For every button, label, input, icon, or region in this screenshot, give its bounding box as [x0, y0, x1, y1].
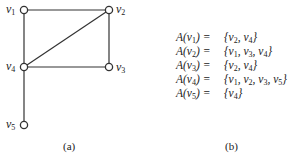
vertex-label-v3: v3 [116, 61, 125, 77]
adjacency-row-v4: A(v4) ={v1, v2, v3, v5} [176, 72, 287, 86]
adjacency-lhs: A(v5) = [176, 86, 224, 104]
vertex-v2 [105, 6, 112, 13]
vertex-label-v1: v1 [6, 3, 15, 19]
vertex-v3 [105, 63, 112, 70]
vertex-v4 [20, 63, 27, 70]
adjacency-rhs: {v1, v2, v3, v5} [224, 73, 287, 85]
caption-a: (a) [63, 140, 75, 152]
adjacency-list: A(v1) ={v2, v4}A(v2) ={v1, v3, v4}A(v3) … [176, 30, 287, 100]
vertex-label-v4: v4 [6, 60, 15, 76]
adjacency-rhs: {v1, v3, v4} [224, 45, 272, 57]
vertex-label-v5: v5 [6, 118, 15, 134]
adjacency-row-v3: A(v3) ={v2, v4} [176, 58, 287, 72]
graph-diagram [0, 0, 150, 163]
adjacency-row-v1: A(v1) ={v2, v4} [176, 30, 287, 44]
vertex-v1 [20, 6, 27, 13]
adjacency-rhs: {v2, v4} [224, 31, 257, 43]
vertex-v5 [20, 121, 27, 128]
adjacency-row-v2: A(v2) ={v1, v3, v4} [176, 44, 287, 58]
graph-edges [24, 10, 109, 125]
adjacency-rhs: {v4} [224, 87, 242, 99]
vertex-label-v2: v2 [116, 3, 125, 19]
adjacency-row-v5: A(v5) ={v4} [176, 86, 287, 100]
adjacency-rhs: {v2, v4} [224, 59, 257, 71]
caption-b: (b) [225, 140, 238, 152]
edge-v2-v4 [24, 10, 109, 67]
